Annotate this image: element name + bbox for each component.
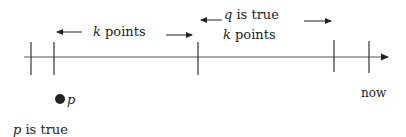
now-label: now xyxy=(361,87,386,99)
timeline-diagram: k points q is true k points p p is true … xyxy=(0,0,406,137)
event-dot-icon xyxy=(55,94,65,104)
diagram-graphics xyxy=(0,0,406,137)
p-is-true-label: p is true xyxy=(13,123,68,136)
k-points-left-label: k points xyxy=(93,25,146,38)
k-points-right-label: k points xyxy=(223,28,276,41)
q-is-true-label: q is true xyxy=(224,8,279,21)
dot-p-label: p xyxy=(67,93,75,106)
